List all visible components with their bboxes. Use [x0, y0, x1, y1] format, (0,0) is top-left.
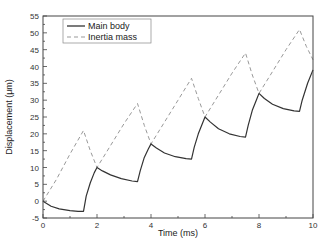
x-tick-label: 2: [95, 221, 100, 230]
series-inertia-mass: [43, 30, 313, 202]
y-tick-label: 50: [30, 29, 39, 38]
x-tick-label: 6: [203, 221, 208, 230]
y-tick-label: 45: [30, 46, 39, 55]
y-axis-label: Displacement (μm): [4, 79, 14, 155]
y-axis-ticks: -50510152025303540455055: [30, 12, 47, 223]
y-tick-label: -5: [32, 214, 40, 223]
y-tick-label: 5: [35, 180, 40, 189]
y-tick-label: 0: [35, 197, 40, 206]
legend-label-main-body: Main body: [88, 21, 130, 31]
plot-area: [43, 30, 313, 212]
y-tick-label: 20: [30, 130, 39, 139]
y-tick-label: 30: [30, 96, 39, 105]
y-tick-label: 15: [30, 147, 39, 156]
series-main-body: [43, 70, 313, 211]
x-tick-label: 0: [41, 221, 46, 230]
legend: Main body Inertia mass: [63, 19, 151, 43]
y-tick-label: 40: [30, 63, 39, 72]
legend-label-inertia-mass: Inertia mass: [88, 32, 138, 42]
displacement-chart: 0246810 -50510152025303540455055 Time (m…: [0, 0, 336, 240]
x-tick-label: 8: [257, 221, 262, 230]
x-axis-label: Time (ms): [158, 228, 198, 238]
y-tick-label: 25: [30, 113, 39, 122]
y-tick-label: 55: [30, 12, 39, 21]
plot-frame: [43, 16, 313, 218]
y-tick-label: 35: [30, 79, 39, 88]
x-tick-label: 10: [309, 221, 318, 230]
x-tick-label: 4: [149, 221, 154, 230]
y-tick-label: 10: [30, 164, 39, 173]
